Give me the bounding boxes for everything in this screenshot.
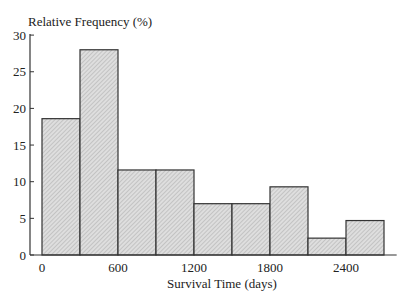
histogram-bar <box>118 170 156 255</box>
x-tick-label: 2400 <box>333 260 359 275</box>
x-tick-label: 1200 <box>181 260 207 275</box>
histogram-bar <box>156 170 194 255</box>
y-axis-label: Relative Frequency (%) <box>28 14 152 29</box>
x-axis-label: Survival Time (days) <box>167 276 277 291</box>
y-tick-label: 20 <box>13 101 26 116</box>
y-tick-label: 10 <box>13 174 26 189</box>
histogram-bar <box>42 119 80 255</box>
histogram-bar <box>346 221 384 255</box>
histogram-bar <box>80 50 118 255</box>
bars-group <box>42 50 384 255</box>
histogram-bar <box>194 204 232 255</box>
y-tick-label: 0 <box>20 248 27 263</box>
x-tick-label: 1800 <box>257 260 283 275</box>
y-tick-label: 30 <box>13 28 26 43</box>
x-tick-label: 0 <box>39 260 46 275</box>
histogram-bar <box>308 238 346 255</box>
y-tick-label: 25 <box>13 64 26 79</box>
histogram-bar <box>270 187 308 255</box>
x-tick-label: 600 <box>108 260 128 275</box>
histogram-bar <box>232 204 270 255</box>
y-tick-label: 5 <box>20 211 27 226</box>
y-tick-label: 15 <box>13 138 26 153</box>
histogram-chart: Relative Frequency (%) 05101520253006001… <box>0 0 405 300</box>
